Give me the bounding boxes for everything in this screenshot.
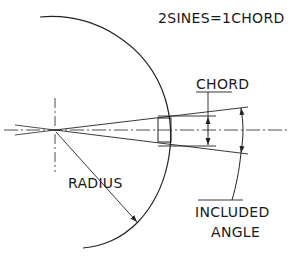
title-label: 2SINES=1CHORD [158,10,285,26]
angle-ray-upper [55,107,248,130]
angle-label: ANGLE [211,224,260,240]
included-angle-arc-down [241,130,243,153]
chord-diagram: 2SINES=1CHORD CHORD RADIUS INCLUDED ANGL… [0,0,291,262]
angle-ray-lower [55,130,248,154]
extension-line-lower-left [15,125,55,130]
included-label: INCLUDED [195,204,270,220]
included-angle-leader [232,153,241,200]
extension-line-upper-left [15,130,55,135]
radius-label: RADIUS [68,175,123,191]
chord-label: CHORD [196,76,249,92]
circle-arc [40,17,171,248]
included-angle-arc-up [241,108,243,130]
